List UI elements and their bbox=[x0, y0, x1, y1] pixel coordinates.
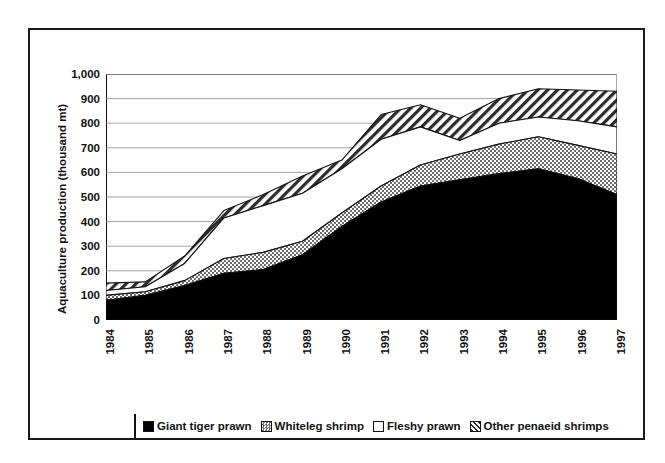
x-tick-label: 1993 bbox=[458, 329, 470, 355]
legend-swatch-diagonal-hatch bbox=[470, 421, 481, 432]
legend-swatch-white bbox=[373, 421, 384, 432]
x-tick-label: 1987 bbox=[222, 329, 234, 355]
legend-item[interactable]: Whiteleg shrimp bbox=[261, 420, 364, 432]
x-tick-label: 1992 bbox=[418, 329, 430, 355]
plot-area: 01002003004005006007008009001,000 198419… bbox=[106, 74, 617, 320]
stacked-area-svg bbox=[106, 74, 617, 320]
y-tick-label: 700 bbox=[81, 142, 100, 154]
legend-item[interactable]: Fleshy prawn bbox=[373, 420, 461, 432]
legend-label: Giant tiger prawn bbox=[157, 420, 252, 432]
legend-swatch-stipple-gray bbox=[261, 421, 272, 432]
y-axis-title: Aquaculture production (thousand mt) bbox=[50, 74, 74, 344]
y-tick-label: 400 bbox=[81, 216, 100, 228]
x-tick-label: 1986 bbox=[183, 329, 195, 355]
y-tick-label: 0 bbox=[94, 314, 100, 326]
x-tick-label: 1985 bbox=[143, 329, 155, 355]
y-tick-label: 300 bbox=[81, 240, 100, 252]
y-tick-label: 600 bbox=[81, 166, 100, 178]
legend-label: Fleshy prawn bbox=[387, 420, 461, 432]
y-tick-label: 100 bbox=[81, 289, 100, 301]
chart-frame: Aquaculture production (thousand mt) 010… bbox=[28, 28, 645, 440]
x-tick-label: 1989 bbox=[301, 329, 313, 355]
y-tick-label: 1,000 bbox=[71, 68, 100, 80]
x-tick-label: 1994 bbox=[497, 329, 509, 355]
legend-label: Whiteleg shrimp bbox=[275, 420, 364, 432]
legend-item[interactable]: Giant tiger prawn bbox=[143, 420, 252, 432]
y-tick-label: 500 bbox=[81, 191, 100, 203]
x-tick-label: 1990 bbox=[340, 329, 352, 355]
x-tick-label: 1988 bbox=[261, 329, 273, 355]
y-tick-label: 800 bbox=[81, 117, 100, 129]
y-axis-title-label: Aquaculture production (thousand mt) bbox=[56, 104, 68, 314]
x-tick-label: 1997 bbox=[615, 329, 627, 355]
chart-legend: Giant tiger prawnWhiteleg shrimpFleshy p… bbox=[134, 414, 572, 438]
x-tick-label: 1996 bbox=[576, 329, 588, 355]
x-tick-label: 1995 bbox=[536, 329, 548, 355]
legend-swatch-solid-black bbox=[143, 421, 154, 432]
legend-item[interactable]: Other penaeid shrimps bbox=[470, 420, 609, 432]
x-tick-label: 1984 bbox=[104, 329, 116, 355]
x-tick-label: 1991 bbox=[379, 329, 391, 355]
legend-label: Other penaeid shrimps bbox=[484, 420, 609, 432]
y-tick-label: 900 bbox=[81, 93, 100, 105]
y-tick-label: 200 bbox=[81, 265, 100, 277]
